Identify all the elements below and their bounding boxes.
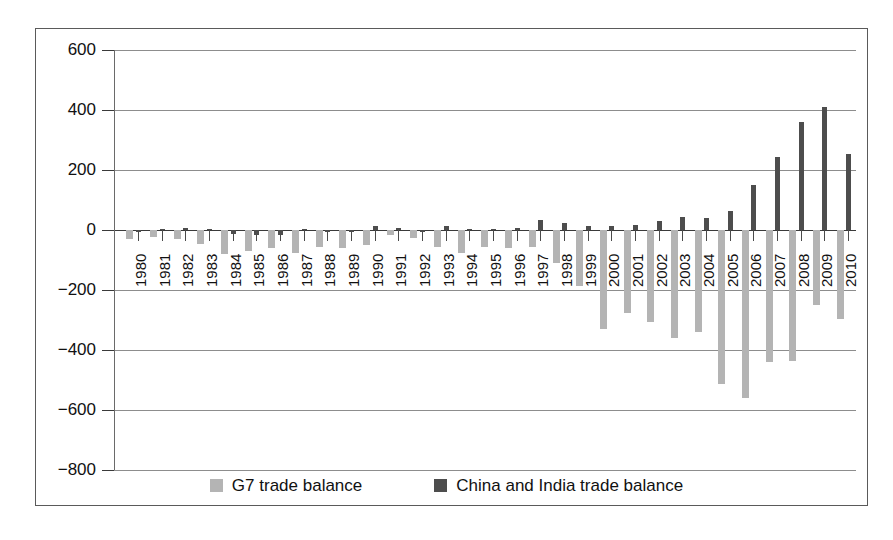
legend-swatch-icon [434, 479, 447, 492]
bar-g7-trade-balance [458, 230, 465, 253]
x-axis-year-label: 2003 [677, 254, 692, 287]
bar-g7-trade-balance [292, 230, 299, 253]
gridline [114, 410, 856, 411]
x-axis-year-label: 2001 [630, 254, 645, 287]
bar-china-india-trade-balance [562, 223, 567, 230]
x-axis-year-label: 1984 [228, 254, 243, 287]
x-axis-tick [848, 230, 849, 241]
x-axis-year-label: 2002 [654, 254, 669, 287]
x-axis-tick [659, 230, 660, 241]
x-axis-year-label: 2006 [748, 254, 763, 287]
x-axis-tick [753, 230, 754, 241]
gridline [114, 110, 856, 111]
y-axis-tick [102, 290, 114, 291]
x-axis-tick [635, 230, 636, 241]
x-axis-tick [564, 230, 565, 241]
legend-label: China and India trade balance [456, 477, 683, 494]
x-axis-tick [682, 230, 683, 241]
y-axis-tick [102, 230, 114, 231]
bar-g7-trade-balance [387, 230, 394, 235]
x-axis-tick [327, 230, 328, 241]
bar-china-india-trade-balance [728, 211, 733, 231]
legend-label: G7 trade balance [232, 477, 362, 494]
x-axis-tick [611, 230, 612, 241]
bar-g7-trade-balance [363, 230, 370, 245]
x-axis-tick [375, 230, 376, 241]
x-axis-year-label: 1987 [299, 254, 314, 287]
x-axis-year-label: 2009 [819, 254, 834, 287]
bar-china-india-trade-balance [704, 218, 709, 230]
bar-china-india-trade-balance [136, 230, 141, 232]
x-axis-year-label: 1985 [251, 254, 266, 287]
x-axis-year-label: 2008 [796, 254, 811, 287]
legend-item[interactable]: China and India trade balance [434, 477, 683, 494]
y-axis-line [114, 50, 115, 470]
y-axis-label: −400 [2, 341, 96, 358]
x-axis-tick [209, 230, 210, 241]
bar-china-india-trade-balance [183, 228, 188, 230]
x-axis-tick [162, 230, 163, 241]
x-axis-tick [540, 230, 541, 241]
bar-china-india-trade-balance [444, 226, 449, 230]
bar-china-india-trade-balance [325, 230, 330, 232]
bar-china-india-trade-balance [846, 154, 851, 231]
bar-china-india-trade-balance [633, 225, 638, 230]
bar-china-india-trade-balance [491, 229, 496, 230]
y-axis-label: −200 [2, 281, 96, 298]
x-axis-tick [422, 230, 423, 241]
bar-china-india-trade-balance [751, 185, 756, 230]
x-axis-tick [706, 230, 707, 241]
y-axis-label: 200 [2, 161, 96, 178]
bar-g7-trade-balance [268, 230, 275, 248]
x-axis-year-label: 1989 [346, 254, 361, 287]
x-axis-tick [801, 230, 802, 241]
x-axis-year-label: 1999 [583, 254, 598, 287]
bar-china-india-trade-balance [775, 157, 780, 231]
legend-swatch-icon [210, 479, 223, 492]
bar-china-india-trade-balance [657, 221, 662, 230]
bar-g7-trade-balance [789, 230, 796, 361]
x-axis-year-label: 2004 [701, 254, 716, 287]
x-axis-year-label: 1991 [393, 254, 408, 287]
gridline [114, 50, 856, 51]
bar-china-india-trade-balance [396, 228, 401, 230]
x-axis-tick [493, 230, 494, 241]
bar-china-india-trade-balance [467, 229, 472, 230]
y-axis-label: −600 [2, 401, 96, 418]
bar-g7-trade-balance [197, 230, 204, 244]
y-axis-tick [102, 50, 114, 51]
x-axis-year-label: 2005 [725, 254, 740, 287]
x-axis-year-label: 2000 [606, 254, 621, 287]
x-axis-year-label: 1995 [488, 254, 503, 287]
legend-item[interactable]: G7 trade balance [210, 477, 362, 494]
x-axis-tick [446, 230, 447, 241]
x-axis-tick [824, 230, 825, 241]
x-axis-year-label: 1982 [180, 254, 195, 287]
x-axis-tick [588, 230, 589, 241]
bar-china-india-trade-balance [160, 229, 165, 230]
bar-china-india-trade-balance [822, 107, 827, 230]
bar-g7-trade-balance [434, 230, 441, 247]
bar-g7-trade-balance [126, 230, 133, 239]
bar-g7-trade-balance [221, 230, 228, 254]
x-axis-tick [469, 230, 470, 241]
bar-china-india-trade-balance [207, 229, 212, 230]
x-axis-tick [517, 230, 518, 241]
bar-china-india-trade-balance [231, 230, 236, 234]
bar-china-india-trade-balance [349, 230, 354, 232]
bar-g7-trade-balance [339, 230, 346, 248]
bar-china-india-trade-balance [254, 230, 259, 235]
bar-chart: 6004002000−200−400−600−80019801981198219… [0, 0, 893, 540]
x-axis-tick [398, 230, 399, 241]
x-axis-year-label: 1983 [204, 254, 219, 287]
x-axis-year-label: 1986 [275, 254, 290, 287]
bar-g7-trade-balance [316, 230, 323, 247]
bar-china-india-trade-balance [799, 122, 804, 230]
gridline [114, 170, 856, 171]
bar-china-india-trade-balance [420, 230, 425, 232]
x-axis-year-label: 1988 [322, 254, 337, 287]
y-axis-tick [102, 110, 114, 111]
bar-g7-trade-balance [245, 230, 252, 251]
bar-g7-trade-balance [410, 230, 417, 238]
chart-legend: G7 trade balanceChina and India trade ba… [0, 470, 893, 500]
